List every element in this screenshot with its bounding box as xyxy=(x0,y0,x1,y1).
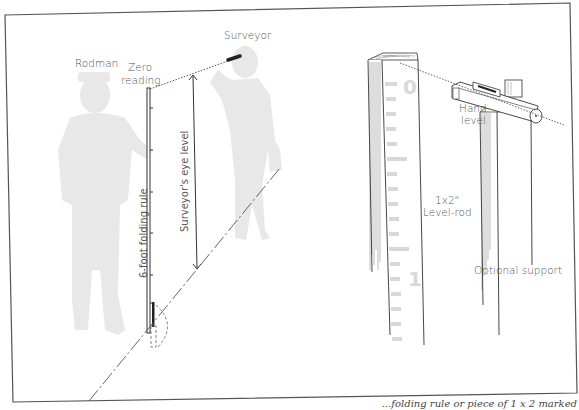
label-eye-level: Surveyor's eye level xyxy=(179,131,190,232)
label-hand-level-2: level xyxy=(461,114,486,126)
level-rod: 0 1 xyxy=(368,53,424,345)
folding-rule xyxy=(147,88,168,347)
label-zero-reading-2: reading xyxy=(121,74,161,86)
diagram-figure: Surveyor Rodman Zero reading Surveyor's … xyxy=(0,0,579,410)
label-level-rod: Level-rod xyxy=(423,206,472,218)
rod-numeral-0: 0 xyxy=(403,75,417,99)
label-rod-1x2: 1x2" xyxy=(435,194,459,206)
label-folding-rule: 6-foot folding rule xyxy=(138,188,149,278)
label-surveyor: Surveyor xyxy=(224,29,272,41)
surveyor-silhouette xyxy=(210,46,282,240)
eye-level-dimension xyxy=(189,75,201,269)
rod-numeral-1: 1 xyxy=(408,267,422,291)
figure-caption: ...folding rule or piece of 1 x 2 marked xyxy=(0,398,579,410)
label-rodman: Rodman xyxy=(75,57,118,69)
label-optional-support: Optional support xyxy=(474,264,562,276)
label-zero-reading-1: Zero xyxy=(128,61,152,73)
optional-support xyxy=(480,108,532,335)
label-hand-level-1: Hand xyxy=(459,102,487,114)
